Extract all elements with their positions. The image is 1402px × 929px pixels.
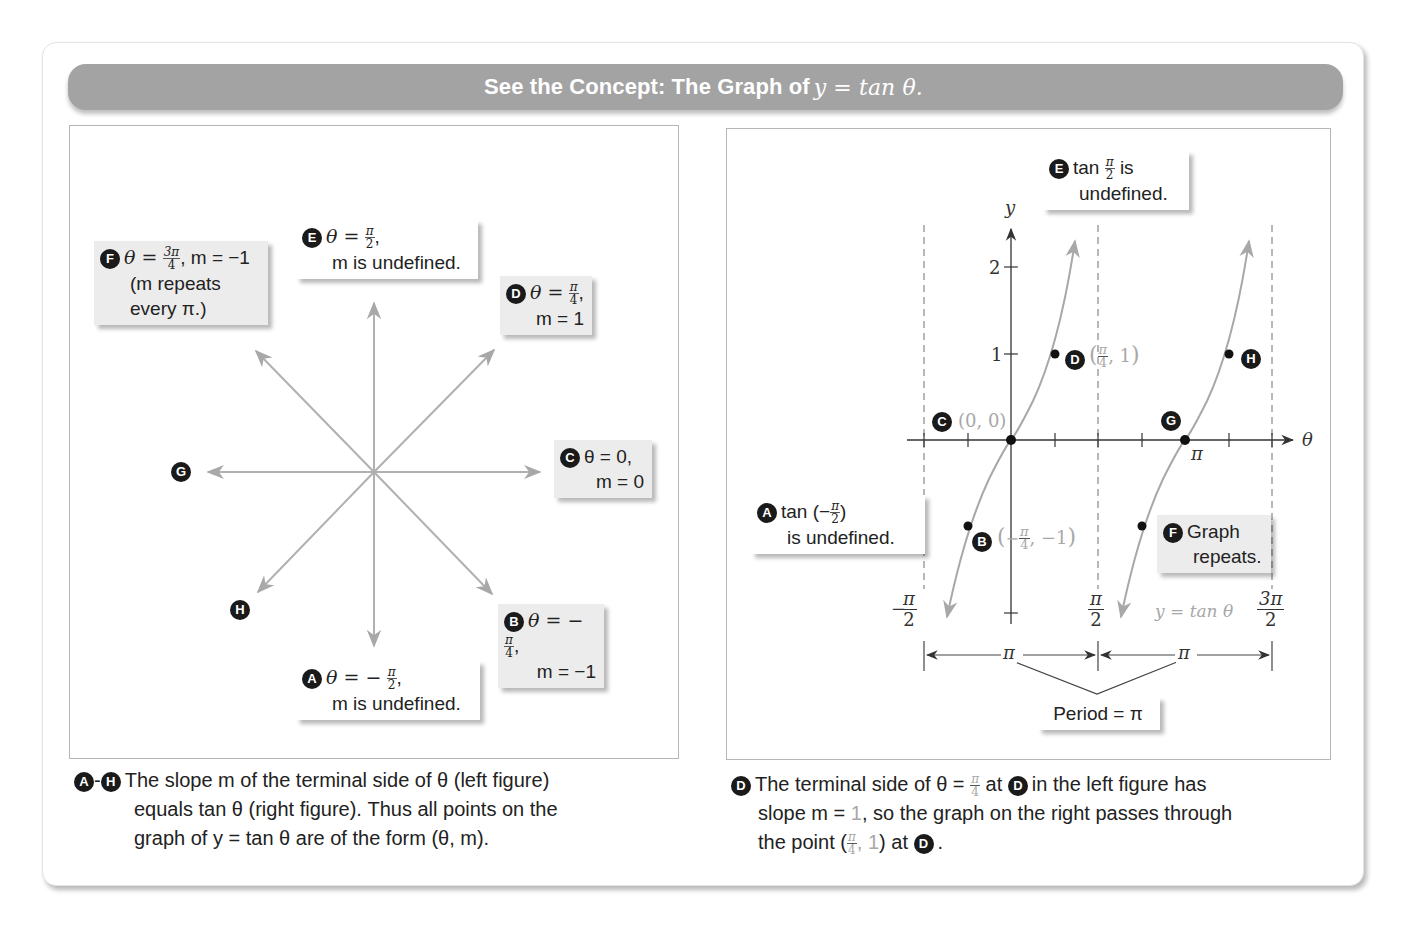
badge-A: A <box>302 669 322 689</box>
left-figure-panel: Fθ = 3π4, m = −1 (m repeats every π.) Eθ… <box>69 125 679 759</box>
badge-D: D <box>1008 776 1028 796</box>
badge-G: G <box>1161 411 1181 431</box>
point-D <box>1051 350 1060 359</box>
y-tick-2: 2 <box>989 257 1000 278</box>
theta-axis-label: θ <box>1302 429 1313 450</box>
banner-title: See the Concept: The Graph of <box>484 74 810 100</box>
point-G <box>1180 435 1190 445</box>
badge-H: H <box>230 600 250 620</box>
callout-E-right: Etan π2 is undefined. <box>1043 151 1189 210</box>
ray-pi-quarter <box>374 350 494 472</box>
callout-D: Dθ = π4, m = 1 <box>500 276 592 335</box>
right-caption: DThe terminal side of θ = π4 at Din the … <box>731 770 1232 857</box>
badge-F: F <box>100 249 120 269</box>
badge-E: E <box>1049 159 1069 179</box>
badge-C: C <box>560 448 580 468</box>
callout-F: Fθ = 3π4, m = −1 (m repeats every π.) <box>94 241 268 325</box>
period-span-1: π <box>1001 642 1017 663</box>
y-axis-label: y <box>1005 197 1015 218</box>
callout-E: Eθ = π2, m is undefined. <box>296 220 478 279</box>
fraction: π4 <box>970 773 980 798</box>
fraction: π2 <box>365 225 375 250</box>
x-tick-pi: π <box>1191 443 1203 464</box>
badge-H: H <box>101 772 121 792</box>
fraction: π4 <box>847 831 857 856</box>
badge-D: D <box>914 834 934 854</box>
right-figure-panel: y θ 2 1 π − π2 π2 3π2 y = tan θ π π C (0… <box>726 128 1331 760</box>
point-C-label: (0, 0) <box>958 410 1006 431</box>
badge-H: H <box>1241 349 1261 369</box>
point-B <box>964 522 973 531</box>
concept-banner: See the Concept: The Graph of y = tan θ. <box>68 64 1343 110</box>
callout-B: Bθ = − π4, m = −1 <box>498 604 604 688</box>
point-D-label: (π4, 1) <box>1089 342 1140 369</box>
point-F <box>1138 522 1147 531</box>
callout-C: Cθ = 0, m = 0 <box>554 440 652 498</box>
ray-3pi-quarter <box>256 351 374 472</box>
ray-5pi-quarter <box>258 472 374 592</box>
badge-F: F <box>1163 523 1183 543</box>
fraction: π2 <box>1105 156 1115 181</box>
badge-E: E <box>302 228 322 248</box>
badge-D: D <box>506 284 526 304</box>
fraction: π4 <box>569 281 579 306</box>
badge-G: G <box>171 462 191 482</box>
curve-label: y = tan θ <box>1155 601 1233 621</box>
badge-A: A <box>757 503 777 523</box>
period-span-2: π <box>1176 642 1192 663</box>
x-tick-pi-half: π2 <box>1088 589 1104 630</box>
banner-equation: y = tan θ. <box>814 75 923 100</box>
badge-C: C <box>932 412 952 432</box>
callout-A-right: Atan (−π2) is undefined. <box>751 495 925 554</box>
badge-D: D <box>1065 350 1085 370</box>
point-B-label: (−π4, −1) <box>997 524 1076 551</box>
fraction: 3π4 <box>163 246 181 271</box>
callout-A: Aθ = − π2, m is undefined. <box>296 661 480 720</box>
left-caption: A-HThe slope m of the terminal side of θ… <box>74 766 558 853</box>
point-H <box>1225 350 1234 359</box>
badge-B: B <box>972 532 992 552</box>
fraction: π2 <box>387 666 397 691</box>
callout-period: Period = π <box>1038 697 1160 730</box>
tan-graph <box>727 129 1330 759</box>
x-tick-neg-pi-half: − π2 <box>901 589 917 630</box>
point-C <box>1006 435 1016 445</box>
x-tick-3pi-half: 3π2 <box>1257 589 1284 630</box>
callout-F-right: FGraph repeats. <box>1157 515 1271 573</box>
fraction: π2 <box>830 500 840 525</box>
fraction: π4 <box>504 634 514 659</box>
ray-7pi-quarter <box>374 472 492 594</box>
badge-D: D <box>731 776 751 796</box>
badge-B: B <box>504 612 524 632</box>
badge-A: A <box>74 772 94 792</box>
y-tick-1: 1 <box>991 344 1002 365</box>
